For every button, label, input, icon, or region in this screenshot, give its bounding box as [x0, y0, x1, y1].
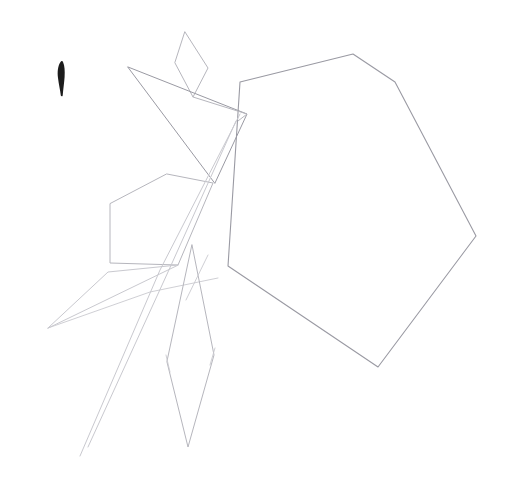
- paper-background: [0, 0, 510, 481]
- sketch-drawing: [0, 0, 510, 481]
- sketch-canvas: [0, 0, 510, 481]
